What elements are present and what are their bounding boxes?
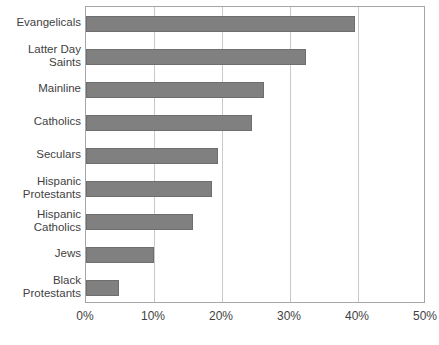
bar (86, 49, 306, 65)
y-axis-label: Evangelicals (0, 16, 81, 29)
x-axis-tick-label: 30% (259, 308, 319, 324)
y-axis-label: Catholics (0, 115, 81, 128)
bar-chart: EvangelicalsLatter Day SaintsMainlineCat… (0, 0, 439, 345)
bar (86, 181, 212, 197)
bar (86, 115, 252, 131)
y-axis-label: Seculars (0, 148, 81, 161)
bars (86, 7, 424, 302)
x-axis-tick-label: 10% (123, 308, 183, 324)
x-axis-tick-labels: 0%10%20%30%40%50% (0, 308, 439, 332)
bar (86, 16, 355, 32)
bar (86, 214, 193, 230)
y-axis-label: Mainline (0, 82, 81, 95)
y-axis-label: Hispanic Catholics (0, 208, 81, 234)
y-axis-label: Hispanic Protestants (0, 175, 81, 201)
y-axis-label: Black Protestants (0, 274, 81, 300)
x-axis-tick-label: 40% (327, 308, 387, 324)
plot-area (85, 6, 425, 303)
y-axis-category-labels: EvangelicalsLatter Day SaintsMainlineCat… (0, 6, 81, 303)
x-axis-tick-label: 50% (395, 308, 439, 324)
y-axis-label: Jews (0, 247, 81, 260)
bar (86, 247, 154, 263)
x-axis-tick-label: 0% (55, 308, 115, 324)
bar (86, 280, 119, 296)
bar (86, 148, 218, 164)
y-axis-label: Latter Day Saints (0, 43, 81, 69)
x-axis-tick-label: 20% (191, 308, 251, 324)
bar (86, 82, 264, 98)
